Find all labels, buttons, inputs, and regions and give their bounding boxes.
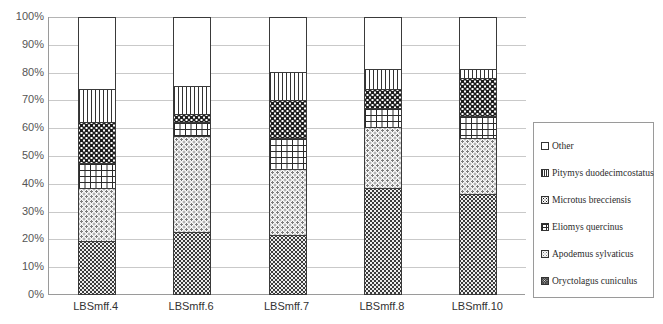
bar-segment[interactable] [79, 164, 115, 189]
bar-slot [49, 17, 144, 295]
legend-item-label: Oryctolagus cuniculus [552, 276, 637, 286]
bar-segment[interactable] [174, 87, 210, 115]
stacked-bar[interactable] [459, 17, 497, 295]
bar-segment[interactable] [460, 70, 496, 78]
legend-item[interactable]: Apodemus sylvaticus [541, 240, 647, 267]
bar-segment[interactable] [270, 73, 306, 101]
bar-segment[interactable] [79, 123, 115, 164]
bar-segment[interactable] [270, 170, 306, 236]
bar-segment[interactable] [174, 123, 210, 137]
y-axis-tick-label: 40% [0, 178, 44, 189]
y-axis-tick-label: 50% [0, 150, 44, 161]
bar-segment[interactable] [79, 242, 115, 294]
bar-segment[interactable] [174, 137, 210, 234]
legend-swatch-icon [541, 223, 549, 231]
legend-item[interactable]: Oryctolagus cuniculus [541, 267, 647, 294]
legend-swatch-icon [541, 250, 549, 258]
bar-segment[interactable] [79, 18, 115, 90]
stacked-bar[interactable] [269, 17, 307, 295]
legend-item[interactable]: Other [541, 132, 647, 159]
bar-segment[interactable] [365, 70, 401, 89]
bar-segment[interactable] [270, 236, 306, 294]
bar-segment[interactable] [270, 18, 306, 73]
x-axis-tick-label: LBSmff.4 [48, 300, 143, 320]
legend-item[interactable]: Microtus brecciensis [541, 186, 647, 213]
stacked-bar[interactable] [364, 17, 402, 295]
stacked-bar[interactable] [173, 17, 211, 295]
legend-swatch-icon [541, 142, 549, 150]
bar-segment[interactable] [79, 90, 115, 123]
bar-segment[interactable] [365, 18, 401, 70]
y-axis-tick-label: 70% [0, 94, 44, 105]
bar-segment[interactable] [79, 189, 115, 241]
y-axis-tick-label: 100% [0, 11, 44, 22]
legend-item-label: Microtus brecciensis [552, 195, 631, 205]
stacked-bar[interactable] [78, 17, 116, 295]
bar-slot [240, 17, 335, 295]
y-axis-tick-label: 90% [0, 39, 44, 50]
y-axis-tick-label: 30% [0, 206, 44, 217]
legend-swatch-icon [541, 169, 549, 177]
bar-segment[interactable] [365, 128, 401, 189]
y-axis-tick-label: 10% [0, 261, 44, 272]
bar-segment[interactable] [365, 189, 401, 294]
x-axis-tick-label: LBSmff.10 [430, 300, 525, 320]
stacked-bar-chart: 100%90%80%70%60%50%40%30%20%10%0% LBSmff… [0, 0, 663, 324]
y-axis-tick-label: 0% [0, 289, 44, 300]
bar-segment[interactable] [460, 18, 496, 70]
bar-segment[interactable] [270, 101, 306, 140]
bar-slot [431, 17, 526, 295]
plot-area [48, 17, 525, 295]
y-axis-tick-label: 20% [0, 233, 44, 244]
bar-slot [144, 17, 239, 295]
legend-item-label: Eliomys quercinus [552, 222, 623, 232]
x-axis-tick-label: LBSmff.7 [239, 300, 334, 320]
bar-segment[interactable] [460, 195, 496, 294]
x-axis-tick-label: LBSmff.6 [143, 300, 238, 320]
legend-item-label: Pitymys duodecimcostatus [552, 168, 654, 178]
legend-item[interactable]: Pitymys duodecimcostatus [541, 159, 647, 186]
bar-segment[interactable] [365, 90, 401, 109]
legend-item-label: Other [552, 141, 574, 151]
y-axis-tick-label: 60% [0, 122, 44, 133]
x-axis-tick-label: LBSmff.8 [334, 300, 429, 320]
bar-segment[interactable] [174, 233, 210, 294]
bar-segment[interactable] [460, 139, 496, 194]
legend-item-label: Apodemus sylvaticus [552, 249, 634, 259]
bars-layer [49, 17, 526, 295]
bar-slot [335, 17, 430, 295]
y-axis: 100%90%80%70%60%50%40%30%20%10%0% [0, 0, 44, 324]
bar-segment[interactable] [460, 79, 496, 118]
bar-segment[interactable] [174, 115, 210, 123]
x-axis: LBSmff.4LBSmff.6LBSmff.7LBSmff.8LBSmff.1… [48, 300, 525, 320]
y-axis-tick-label: 80% [0, 67, 44, 78]
bar-segment[interactable] [174, 18, 210, 87]
legend-swatch-icon [541, 277, 549, 285]
legend-swatch-icon [541, 196, 549, 204]
chart-legend: OtherPitymys duodecimcostatusMicrotus br… [533, 122, 654, 298]
legend-item[interactable]: Eliomys quercinus [541, 213, 647, 240]
bar-segment[interactable] [270, 139, 306, 169]
bar-segment[interactable] [365, 109, 401, 128]
bar-segment[interactable] [460, 117, 496, 139]
